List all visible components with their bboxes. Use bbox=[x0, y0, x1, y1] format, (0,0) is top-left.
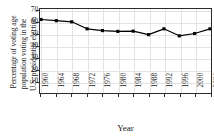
data-point-marker bbox=[132, 30, 135, 33]
x-axis-tick-mark bbox=[87, 94, 88, 97]
chart-figure: Percentage of voting age population voti… bbox=[0, 0, 214, 137]
x-axis-tick-label: 1984 bbox=[136, 73, 143, 99]
x-axis-tick-label: 1980 bbox=[121, 73, 128, 99]
data-point-marker bbox=[70, 20, 73, 23]
x-axis-tick-label: 1976 bbox=[105, 73, 112, 99]
data-point-marker bbox=[55, 19, 58, 22]
x-axis-tick-mark bbox=[133, 94, 134, 97]
x-axis-label: Year bbox=[39, 123, 212, 134]
data-point-marker bbox=[86, 27, 89, 30]
series-polyline bbox=[41, 20, 210, 36]
x-axis-tick-mark bbox=[149, 94, 150, 97]
x-axis-tick-mark bbox=[40, 94, 41, 97]
x-axis-tick-label: 2000 bbox=[198, 73, 205, 99]
x-axis-tick-label: 1960 bbox=[43, 73, 50, 99]
x-axis-tick-mark bbox=[118, 94, 119, 97]
data-point-marker bbox=[39, 18, 42, 21]
x-axis-tick-mark bbox=[56, 94, 57, 97]
data-point-marker bbox=[178, 34, 181, 37]
data-point-marker bbox=[101, 29, 104, 32]
data-point-marker bbox=[208, 27, 211, 30]
data-point-marker bbox=[147, 33, 150, 36]
x-axis-tick-label: 1968 bbox=[74, 73, 81, 99]
x-axis-tick-mark bbox=[211, 94, 212, 97]
x-axis-tick-mark bbox=[180, 94, 181, 97]
x-axis-tick-mark bbox=[164, 94, 165, 97]
x-axis-tick-label: 1964 bbox=[59, 73, 66, 99]
x-axis-tick-mark bbox=[102, 94, 103, 97]
data-point-marker bbox=[162, 27, 165, 30]
x-axis-tick-label: 1988 bbox=[152, 73, 159, 99]
data-point-marker bbox=[193, 32, 196, 35]
x-axis-tick-mark bbox=[195, 94, 196, 97]
x-axis-tick-label: 1996 bbox=[183, 73, 190, 99]
x-axis-tick-mark bbox=[71, 94, 72, 97]
x-axis-tick-label: 1972 bbox=[90, 73, 97, 99]
data-point-marker bbox=[116, 30, 119, 33]
x-axis-tick-label: 1992 bbox=[167, 73, 174, 99]
